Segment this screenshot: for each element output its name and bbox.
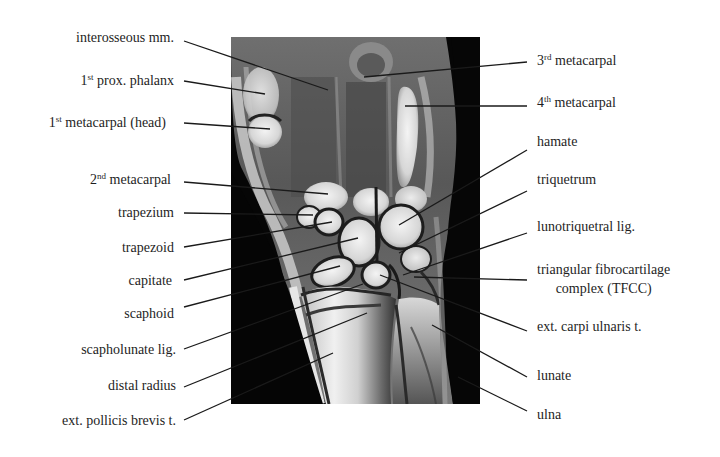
label-text: trapezium [118, 205, 174, 220]
label-text: distal radius [108, 378, 176, 393]
label-number: 4 [537, 95, 544, 110]
label-capitate: capitate [128, 273, 172, 289]
label-text: metacarpal [552, 53, 617, 68]
label-text: capitate [128, 273, 172, 288]
label-text: scapholunate lig. [81, 342, 176, 357]
label-trapezoid: trapezoid [122, 240, 174, 256]
label-1st-metacarpal-head: 1st metacarpal (head) [49, 115, 166, 131]
label-scapholunate-lig: scapholunate lig. [81, 342, 176, 358]
label-text: metacarpal [106, 172, 171, 187]
label-ext-carpi-ulnaris-t: ext. carpi ulnaris t. [537, 319, 642, 335]
label-superscript: rd [544, 52, 552, 62]
label-lunotriquetral-lig: lunotriquetral lig. [537, 219, 635, 235]
label-1st-prox-phalanx: 1st prox. phalanx [81, 73, 175, 89]
label-2nd-metacarpal: 2nd metacarpal [90, 172, 171, 188]
label-3rd-metacarpal: 3rd metacarpal [537, 53, 616, 69]
label-text: ext. pollicis brevis t. [62, 413, 176, 428]
label-number: 1 [81, 73, 88, 88]
label-text: metacarpal (head) [62, 115, 166, 130]
label-distal-radius: distal radius [108, 378, 176, 394]
label-superscript: nd [97, 171, 106, 181]
label-text: hamate [537, 134, 577, 149]
label-scaphoid: scaphoid [124, 306, 174, 322]
label-text: trapezoid [122, 240, 174, 255]
label-tfcc: triangular fibrocartilage complex (TFCC) [537, 262, 670, 297]
label-text: interosseous mm. [76, 30, 174, 45]
label-ext-pollicis-brevis-t: ext. pollicis brevis t. [62, 413, 176, 429]
label-number: 3 [537, 53, 544, 68]
label-lunate: lunate [537, 368, 571, 384]
label-text: triquetrum [537, 172, 596, 187]
label-text-line1: triangular fibrocartilage [537, 262, 670, 278]
label-text-line2: complex (TFCC) [537, 281, 670, 297]
label-4th-metacarpal: 4th metacarpal [537, 95, 616, 111]
label-hamate: hamate [537, 134, 577, 150]
label-text: ulna [537, 407, 561, 422]
label-number: 1 [49, 115, 56, 130]
label-text: metacarpal [551, 95, 616, 110]
label-text: scaphoid [124, 306, 174, 321]
label-text: ext. carpi ulnaris t. [537, 319, 642, 334]
label-superscript: th [544, 94, 551, 104]
label-text: lunotriquetral lig. [537, 219, 635, 234]
label-triquetrum: triquetrum [537, 172, 596, 188]
mri-image [231, 37, 480, 404]
label-ulna: ulna [537, 407, 561, 423]
annotated-wrist-mri-figure: interosseous mm. 1st prox. phalanx 1st m… [0, 0, 720, 457]
label-interosseous-mm: interosseous mm. [76, 30, 174, 46]
mri-rendering [231, 37, 480, 404]
label-trapezium: trapezium [118, 205, 174, 221]
label-text: prox. phalanx [94, 73, 174, 88]
label-text: lunate [537, 368, 571, 383]
